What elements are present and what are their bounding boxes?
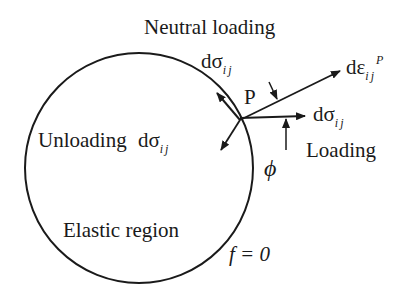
plastic-strain-label: dεijP xyxy=(346,57,383,78)
yield-surface-circle xyxy=(25,53,253,283)
elastic-region-label: Elastic region xyxy=(63,220,179,241)
loading-label: Loading xyxy=(306,140,376,161)
angle-phi-label: ϕ xyxy=(264,156,276,180)
angle-indicator-upper xyxy=(269,82,277,99)
point-p-label: P xyxy=(244,87,256,108)
unloading-label: Unloading dσij xyxy=(38,130,170,151)
neutral-loading-label: Neutral loading xyxy=(144,17,275,38)
yield-surface-diagram: Neutral loading dσij P dεijP dσij Unload… xyxy=(0,0,420,297)
yield-surface-label: f = 0 xyxy=(229,244,270,265)
loading-dsigma-label: dσij xyxy=(313,104,346,125)
unloading-arrow xyxy=(221,120,240,150)
loading-arrow xyxy=(240,116,305,118)
neutral-dsigma-label: dσij xyxy=(201,51,234,72)
